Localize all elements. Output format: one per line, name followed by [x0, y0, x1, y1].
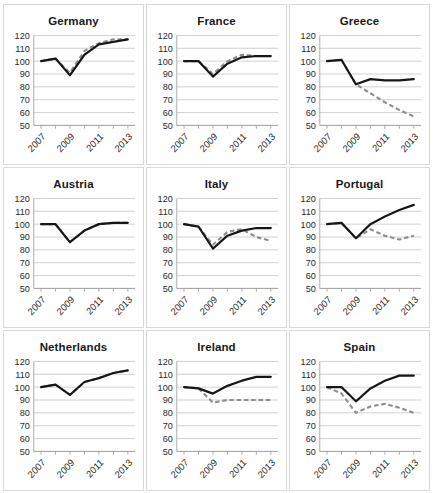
y-tick-label: 80	[306, 407, 316, 418]
plot-area: 50607080901001101202007200920112013	[290, 29, 429, 164]
y-tick-label: 80	[20, 81, 30, 92]
y-tick-label: 60	[163, 270, 173, 281]
y-tick-label: 100	[158, 381, 173, 392]
y-tick-label: 100	[301, 55, 316, 66]
y-tick-label: 120	[15, 30, 30, 41]
y-tick-label: 100	[15, 218, 30, 229]
x-tick-label: 2009	[340, 457, 362, 481]
y-tick-label: 100	[15, 55, 30, 66]
y-tick-label: 120	[301, 30, 316, 41]
chart-panel: Ireland506070809010011012020072009201120…	[146, 330, 287, 491]
plot-area: 50607080901001101202007200920112013	[4, 192, 143, 327]
x-tick-label: 2007	[311, 457, 333, 481]
y-tick-label: 80	[306, 244, 316, 255]
y-tick-label: 120	[301, 356, 316, 367]
panel-title: Spain	[290, 341, 429, 354]
y-tick-label: 50	[20, 446, 30, 457]
y-tick-label: 90	[163, 394, 173, 405]
x-tick-label: 2013	[255, 294, 277, 318]
chart-panel: Italy50607080901001101202007200920112013	[146, 167, 287, 328]
x-tick-label: 2007	[311, 294, 333, 318]
x-tick-label: 2009	[54, 457, 76, 481]
y-tick-label: 100	[15, 381, 30, 392]
x-tick-label: 2011	[227, 294, 248, 317]
y-tick-label: 50	[20, 283, 30, 294]
series-line-solid	[184, 377, 271, 394]
x-tick-label: 2007	[25, 457, 47, 481]
y-tick-label: 110	[301, 368, 316, 379]
x-tick-label: 2013	[398, 457, 420, 481]
panel-title: Portugal	[290, 178, 429, 191]
y-tick-label: 80	[163, 407, 173, 418]
y-tick-label: 80	[163, 244, 173, 255]
y-tick-label: 110	[15, 42, 30, 53]
y-tick-label: 70	[163, 420, 173, 431]
y-tick-label: 70	[20, 420, 30, 431]
series-line-solid	[41, 39, 128, 75]
y-tick-label: 70	[20, 257, 30, 268]
y-tick-label: 80	[163, 81, 173, 92]
y-tick-label: 110	[158, 42, 173, 53]
y-tick-label: 90	[306, 394, 316, 405]
y-tick-label: 80	[20, 407, 30, 418]
y-tick-label: 120	[301, 193, 316, 204]
y-tick-label: 100	[158, 218, 173, 229]
y-tick-label: 60	[306, 107, 316, 118]
chart-panel: Austria506070809010011012020072009201120…	[3, 167, 144, 328]
plot-area: 50607080901001101202007200920112013	[4, 355, 143, 490]
y-tick-label: 50	[20, 120, 30, 131]
y-tick-label: 50	[163, 120, 173, 131]
x-tick-label: 2007	[25, 131, 47, 155]
x-tick-label: 2009	[197, 131, 219, 155]
plot-area: 50607080901001101202007200920112013	[4, 29, 143, 164]
x-tick-label: 2009	[340, 294, 362, 318]
x-tick-label: 2009	[197, 457, 219, 481]
y-tick-label: 50	[306, 283, 316, 294]
panel-title: Germany	[4, 15, 143, 28]
y-tick-label: 90	[163, 231, 173, 242]
y-tick-label: 60	[163, 107, 173, 118]
y-tick-label: 120	[15, 356, 30, 367]
y-tick-label: 60	[20, 433, 30, 444]
y-tick-label: 110	[158, 368, 173, 379]
y-tick-label: 60	[20, 107, 30, 118]
y-tick-label: 50	[306, 446, 316, 457]
plot-area: 50607080901001101202007200920112013	[147, 355, 286, 490]
y-tick-label: 70	[306, 94, 316, 105]
y-tick-label: 110	[15, 368, 30, 379]
series-line-solid	[327, 205, 414, 238]
plot-area: 50607080901001101202007200920112013	[290, 355, 429, 490]
x-tick-label: 2011	[370, 294, 391, 317]
x-tick-label: 2007	[168, 294, 190, 318]
x-tick-label: 2007	[168, 457, 190, 481]
y-tick-label: 50	[163, 446, 173, 457]
y-tick-label: 120	[15, 193, 30, 204]
x-tick-label: 2011	[84, 457, 105, 480]
x-tick-label: 2011	[84, 131, 105, 154]
y-tick-label: 110	[301, 205, 316, 216]
x-tick-label: 2007	[311, 131, 333, 155]
x-tick-label: 2011	[227, 131, 248, 154]
x-tick-label: 2013	[255, 457, 277, 481]
y-tick-label: 80	[306, 81, 316, 92]
y-tick-label: 60	[306, 433, 316, 444]
y-tick-label: 60	[163, 433, 173, 444]
y-tick-label: 50	[306, 120, 316, 131]
y-tick-label: 100	[301, 381, 316, 392]
series-line-dashed	[327, 60, 414, 117]
y-tick-label: 120	[158, 193, 173, 204]
x-tick-label: 2009	[54, 294, 76, 318]
x-tick-label: 2009	[197, 294, 219, 318]
y-tick-label: 50	[163, 283, 173, 294]
series-line-solid	[184, 56, 271, 77]
y-tick-label: 90	[20, 68, 30, 79]
x-tick-label: 2013	[398, 131, 420, 155]
y-tick-label: 60	[20, 270, 30, 281]
x-tick-label: 2011	[370, 131, 391, 154]
series-line-solid	[327, 376, 414, 402]
series-line-dashed	[41, 223, 128, 242]
y-tick-label: 110	[158, 205, 173, 216]
y-tick-label: 110	[15, 205, 30, 216]
x-tick-label: 2013	[112, 294, 134, 318]
chart-panel: Portugal50607080901001101202007200920112…	[289, 167, 430, 328]
